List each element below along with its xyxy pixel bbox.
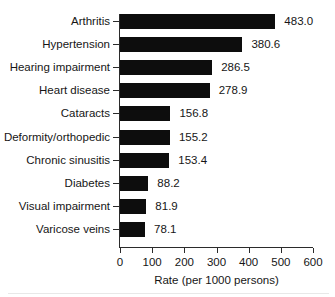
category-tick [113,183,120,184]
category-tick [113,113,120,114]
x-axis-tick-label: 400 [239,255,258,269]
bar-row: Hearing impairment286.5 [120,60,313,75]
category-tick [113,21,120,22]
bar-value-label: 380.6 [251,37,280,52]
bar-value-label: 286.5 [221,60,250,75]
bar-row: Hypertension380.6 [120,37,313,52]
bar-row: Diabetes88.2 [120,176,313,191]
scan-artifact-line [8,293,329,294]
x-axis-tick-label: 500 [271,255,290,269]
category-tick [113,90,120,91]
category-label: Chronic sinusitis [26,153,110,168]
category-label: Hypertension [42,37,110,52]
x-axis-tick-label: 200 [175,255,194,269]
bar [120,60,212,75]
category-label: Hearing impairment [10,60,110,75]
bar [120,176,148,191]
bar-row: Cataracts156.8 [120,106,313,121]
category-tick [113,67,120,68]
bar [120,199,146,214]
bar-row: Chronic sinusitis153.4 [120,153,313,168]
category-label: Visual impairment [19,199,110,214]
x-axis-tick-label: 600 [303,255,322,269]
bar-row: Deformity/orthopedic155.2 [120,130,313,145]
bar-value-label: 155.2 [179,130,208,145]
x-axis-tick [217,248,218,253]
bar-chart: Arthritis483.0Hypertension380.6Hearing i… [0,0,335,297]
x-axis-tick [184,248,185,253]
bar-row: Visual impairment81.9 [120,199,313,214]
x-axis-tick-label: 0 [117,255,123,269]
bar-row: Heart disease278.9 [120,83,313,98]
category-tick [113,229,120,230]
bar [120,106,170,121]
x-axis-tick [249,248,250,253]
bar [120,153,169,168]
category-label: Heart disease [39,83,110,98]
category-tick [113,206,120,207]
category-label: Varicose veins [36,222,110,237]
category-label: Arthritis [71,14,110,29]
bar-value-label: 483.0 [284,14,313,29]
category-tick [113,137,120,138]
bar-value-label: 153.4 [178,153,207,168]
x-axis-tick [152,248,153,253]
category-label: Deformity/orthopedic [4,130,110,145]
bar-value-label: 78.1 [154,222,176,237]
bar [120,14,275,29]
x-axis-tick-label: 100 [143,255,162,269]
bar [120,37,242,52]
plot-area: Arthritis483.0Hypertension380.6Hearing i… [120,14,313,246]
category-tick [113,160,120,161]
category-tick [113,44,120,45]
bar-row: Arthritis483.0 [120,14,313,29]
bar [120,83,210,98]
bar-value-label: 278.9 [219,83,248,98]
bar [120,130,170,145]
x-axis-tick-label: 300 [207,255,226,269]
bar-value-label: 156.8 [179,106,208,121]
bar [120,222,145,237]
category-label: Cataracts [61,106,110,121]
category-label: Diabetes [65,176,110,191]
x-axis-tick [281,248,282,253]
bar-value-label: 81.9 [155,199,177,214]
bar-value-label: 88.2 [157,176,179,191]
bar-row: Varicose veins78.1 [120,222,313,237]
x-axis-tick [120,248,121,253]
x-axis-tick [313,248,314,253]
x-axis-title: Rate (per 1000 persons) [120,274,313,286]
